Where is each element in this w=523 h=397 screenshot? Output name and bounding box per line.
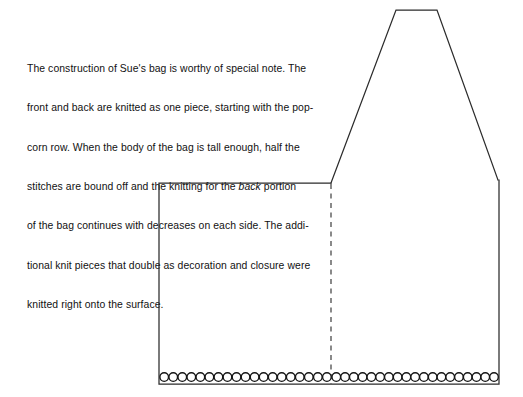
caption-emphasis-back: back <box>239 181 261 192</box>
popcorn-stitch-front <box>314 373 323 382</box>
popcorn-stitch-front <box>259 373 268 382</box>
popcorn-stitch-back <box>385 373 394 382</box>
popcorn-stitch-row <box>160 373 498 382</box>
page-canvas: The construction of Sue's bag is worthy … <box>0 0 523 397</box>
popcorn-stitch-front <box>196 373 205 382</box>
popcorn-stitch-front <box>169 373 178 382</box>
popcorn-stitch-back <box>332 373 341 382</box>
caption-line-1: The construction of Sue's bag is worthy … <box>27 62 345 75</box>
popcorn-stitch-back <box>393 373 402 382</box>
popcorn-stitch-back <box>481 373 490 382</box>
popcorn-stitch-back <box>341 373 350 382</box>
construction-note: The construction of Sue's bag is worthy … <box>27 36 345 337</box>
popcorn-stitch-back <box>437 373 446 382</box>
popcorn-stitch-back <box>358 373 367 382</box>
popcorn-stitch-back <box>367 373 376 382</box>
popcorn-stitch-back <box>350 373 359 382</box>
caption-line-3: corn row. When the body of the bag is ta… <box>27 141 345 154</box>
popcorn-stitch-back <box>490 373 499 382</box>
popcorn-stitch-front <box>286 373 295 382</box>
popcorn-stitch-back <box>446 373 455 382</box>
caption-line-4: stitches are bound off and the knitting … <box>27 180 345 193</box>
popcorn-stitch-front <box>205 373 214 382</box>
popcorn-stitch-back <box>411 373 420 382</box>
caption-line-2: front and back are knitted as one piece,… <box>27 101 345 114</box>
popcorn-stitch-back <box>463 373 472 382</box>
caption-line-4-after: portion <box>261 181 296 192</box>
popcorn-stitch-front <box>305 373 314 382</box>
popcorn-stitch-front <box>241 373 250 382</box>
bag-flap-outline <box>331 10 498 183</box>
popcorn-stitch-front <box>268 373 277 382</box>
popcorn-stitch-front <box>295 373 304 382</box>
popcorn-stitch-front <box>232 373 241 382</box>
popcorn-stitch-front <box>214 373 223 382</box>
popcorn-stitch-back <box>402 373 411 382</box>
caption-line-6: tional knit pieces that double as decora… <box>27 259 345 272</box>
popcorn-stitch-front <box>187 373 196 382</box>
popcorn-stitch-front <box>277 373 286 382</box>
popcorn-stitch-back <box>472 373 481 382</box>
popcorn-stitch-front <box>160 373 169 382</box>
popcorn-stitch-front <box>223 373 232 382</box>
popcorn-stitch-front <box>250 373 259 382</box>
popcorn-stitch-back <box>455 373 464 382</box>
caption-line-5: of the bag continues with decreases on e… <box>27 219 345 232</box>
popcorn-stitch-back <box>428 373 437 382</box>
caption-line-7: knitted right onto the surface. <box>27 298 345 311</box>
popcorn-stitch-back <box>420 373 429 382</box>
popcorn-stitch-front <box>178 373 187 382</box>
popcorn-stitch-front <box>323 373 332 382</box>
popcorn-stitch-back <box>376 373 385 382</box>
caption-line-4-before: stitches are bound off and the knitting … <box>27 181 239 192</box>
